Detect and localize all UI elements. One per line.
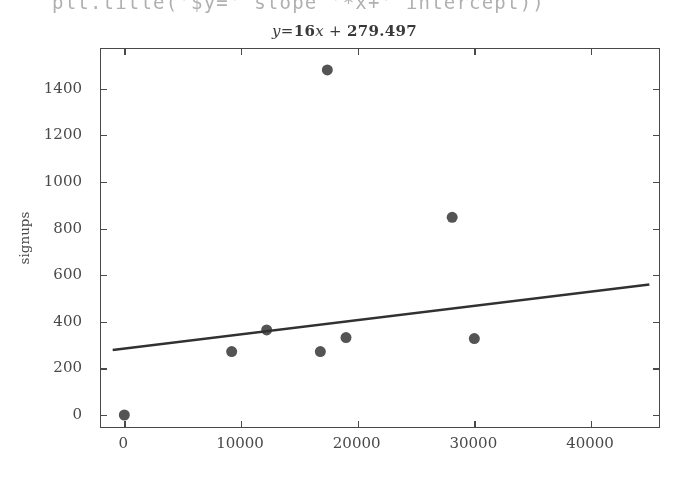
y-tick-label: 0 xyxy=(72,405,82,423)
title-x: x xyxy=(315,22,324,40)
y-tick-label: 800 xyxy=(53,219,82,237)
y-tick-label: 1200 xyxy=(44,125,82,143)
y-axis-tick-labels: 0200400600800100012001400 xyxy=(0,48,92,428)
screenshot-root: plt.title('$y=' slope '*x+' intercept)) … xyxy=(0,0,689,483)
y-tick-label: 600 xyxy=(53,265,82,283)
title-slope: 16 xyxy=(294,22,315,40)
scatter-point xyxy=(447,212,458,223)
chart-title: y=16x + 279.497 xyxy=(0,22,689,40)
title-intercept: 279.497 xyxy=(347,22,417,40)
x-tick-label: 30000 xyxy=(449,434,497,452)
scatter-point xyxy=(315,346,326,357)
y-tick-label: 1000 xyxy=(44,172,82,190)
x-tick-label: 20000 xyxy=(333,434,381,452)
y-tick-label: 400 xyxy=(53,312,82,330)
title-eq: = xyxy=(281,22,294,40)
scatter-point xyxy=(469,333,480,344)
regression-line xyxy=(113,284,650,350)
title-lhs: y xyxy=(272,22,281,40)
scatter-point xyxy=(226,346,237,357)
x-tick-label: 0 xyxy=(119,434,129,452)
scatter-point xyxy=(341,332,352,343)
data-overlay xyxy=(101,49,661,429)
plot-area xyxy=(100,48,660,428)
matplotlib-figure: y=16x + 279.497 signups 0200400600800100… xyxy=(0,0,689,483)
x-axis-tick-labels: 010000200003000040000 xyxy=(100,432,660,458)
scatter-point xyxy=(322,64,333,75)
scatter-point xyxy=(119,410,130,421)
title-plus: + xyxy=(329,22,342,40)
x-tick-label: 10000 xyxy=(216,434,264,452)
x-tick-label: 40000 xyxy=(566,434,614,452)
y-tick-label: 200 xyxy=(53,358,82,376)
y-tick-label: 1400 xyxy=(44,79,82,97)
